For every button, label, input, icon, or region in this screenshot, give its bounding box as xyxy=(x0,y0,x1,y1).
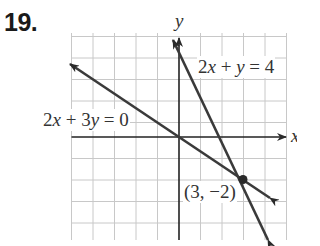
equation-label-2: 2x + 3y = 0 xyxy=(42,109,130,131)
x-axis-label: x xyxy=(291,125,297,147)
intersection-label: (3, −2) xyxy=(183,181,237,203)
y-axis-label: y xyxy=(175,10,183,32)
equation-label-1: 2x + y = 4 xyxy=(197,56,275,78)
intersection-point xyxy=(239,175,248,184)
